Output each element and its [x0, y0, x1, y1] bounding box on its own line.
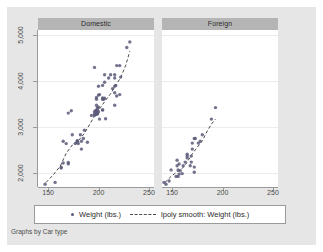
data-point: [82, 137, 85, 140]
data-point: [97, 85, 100, 88]
y-axis-tick-label: 4,000: [7, 81, 32, 82]
data-point: [169, 168, 172, 171]
y-axis-tick-label: 2,000: [7, 173, 32, 174]
data-point: [199, 140, 202, 143]
data-point: [113, 76, 116, 79]
data-point: [107, 76, 110, 79]
data-point: [98, 117, 101, 120]
data-point: [80, 140, 83, 143]
x-axis-tick-label: 150: [166, 189, 178, 196]
x-axis-tick-label: 200: [217, 189, 229, 196]
legend-entry-line[interactable]: lpoly smooth: Weight (lbs.): [130, 210, 249, 219]
data-point: [93, 66, 96, 69]
series-layer-foreign: [162, 30, 278, 187]
data-point: [95, 111, 98, 114]
data-point: [182, 164, 185, 167]
data-point: [76, 140, 79, 143]
data-point: [191, 147, 194, 150]
data-point: [191, 141, 194, 144]
y-axis-tick-label-text: 4,000: [16, 72, 23, 90]
data-point: [90, 114, 93, 117]
y-axis-tick: [33, 127, 37, 128]
x-axis-line-domestic: [38, 187, 154, 188]
y-axis-tick-label: 5,000: [7, 35, 32, 36]
data-point: [83, 129, 86, 132]
y-axis-tick-label-text: 5,000: [16, 26, 23, 44]
data-point: [103, 81, 106, 84]
data-point: [86, 141, 89, 144]
data-point: [164, 183, 167, 186]
data-point: [65, 142, 68, 145]
y-axis-tick: [33, 35, 37, 36]
data-point: [101, 96, 104, 99]
data-point: [214, 106, 217, 109]
panel-title-foreign: Foreign: [162, 18, 278, 30]
data-point: [79, 133, 82, 136]
scatter-marker-icon: [71, 213, 74, 216]
data-point: [43, 183, 46, 186]
x-axis-tick-label: 150: [42, 189, 54, 196]
data-point: [115, 64, 118, 67]
data-point: [60, 165, 63, 168]
data-point: [113, 73, 116, 76]
data-point: [125, 46, 128, 49]
data-point: [167, 179, 170, 182]
data-point: [67, 162, 70, 165]
data-point: [189, 164, 192, 167]
data-point: [62, 140, 65, 143]
data-point: [118, 93, 121, 96]
data-point: [190, 160, 193, 163]
lpoly-smooth-line: [165, 119, 216, 182]
data-point: [95, 96, 98, 99]
data-point: [201, 133, 204, 136]
data-point: [80, 147, 83, 150]
data-point: [70, 109, 73, 112]
series-layer-domestic: [38, 30, 154, 187]
data-point: [114, 84, 117, 87]
legend[interactable]: Weight (lbs.) lpoly smooth: Weight (lbs.…: [34, 205, 286, 224]
y-axis-tick: [33, 81, 37, 82]
data-point: [113, 91, 116, 94]
data-point: [193, 171, 196, 174]
x-axis-tick-label: 200: [93, 189, 105, 196]
data-point: [190, 154, 193, 157]
legend-label-marker: Weight (lbs.): [79, 210, 121, 219]
data-point: [53, 181, 56, 184]
data-point: [103, 73, 106, 76]
data-point: [113, 104, 116, 107]
data-point: [71, 133, 74, 136]
data-point: [111, 87, 114, 90]
data-point: [118, 64, 121, 67]
panel-domestic: [38, 30, 154, 187]
data-point: [193, 165, 196, 168]
data-point: [179, 169, 182, 172]
data-point: [101, 84, 104, 87]
lpoly-smooth-line: [46, 51, 130, 182]
data-point: [98, 93, 101, 96]
data-point: [210, 117, 213, 120]
panel-foreign: [162, 30, 278, 187]
legend-label-line: lpoly smooth: Weight (lbs.): [161, 210, 249, 219]
y-axis-line: [37, 30, 38, 187]
data-point: [177, 172, 180, 175]
data-point: [101, 108, 104, 111]
data-point: [181, 172, 184, 175]
legend-entry-marker[interactable]: Weight (lbs.): [71, 210, 121, 219]
graph-canvas: Domestic Foreign 2,0003,0004,0005,000150…: [7, 7, 316, 245]
data-point: [67, 111, 70, 114]
x-axis-tick-label: 250: [267, 189, 279, 196]
y-axis-tick-label-text: 3,000: [16, 118, 23, 136]
y-axis-tick-label: 3,000: [7, 127, 32, 128]
data-point: [104, 117, 107, 120]
data-point: [194, 137, 197, 140]
dashed-line-icon: [130, 214, 156, 215]
data-point: [186, 153, 189, 156]
x-axis-line-foreign: [162, 187, 278, 188]
x-axis-tick-label: 250: [143, 189, 155, 196]
graph-note: Graphs by Car type: [11, 228, 67, 235]
data-point: [62, 161, 65, 164]
panel-title-domestic: Domestic: [38, 18, 154, 30]
data-point: [184, 160, 187, 163]
data-point: [128, 40, 131, 43]
data-point: [175, 159, 178, 162]
